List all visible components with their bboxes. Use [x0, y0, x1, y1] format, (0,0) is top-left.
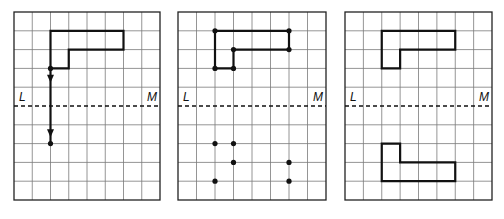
reflected-vertex-dot: [286, 160, 291, 165]
vertex-dot: [231, 47, 236, 52]
vertex-dot: [212, 66, 217, 71]
reflected-vertex-dot: [286, 179, 291, 184]
line-label-l: L: [183, 90, 190, 104]
vertex-dot: [286, 28, 291, 33]
reflected-vertex-dot: [231, 160, 236, 165]
reflection-diagram: LMLMLM: [0, 0, 504, 219]
panel-2: LM: [178, 12, 326, 200]
line-label-m: M: [479, 90, 489, 104]
panel-3: LM: [345, 12, 492, 200]
vertex-dot: [286, 47, 291, 52]
reflected-vertex-dot: [212, 179, 217, 184]
line-label-m: M: [147, 90, 157, 104]
vertex-dot: [231, 66, 236, 71]
reflected-vertex-dot: [212, 141, 217, 146]
start-dot: [48, 66, 53, 71]
line-label-m: M: [313, 90, 323, 104]
line-label-l: L: [19, 90, 26, 104]
reflected-vertex-dot: [231, 141, 236, 146]
vertex-dot: [212, 28, 217, 33]
panel-1: LM: [14, 12, 160, 200]
arrow-down-icon: [47, 75, 54, 83]
arrow-down-icon: [47, 129, 54, 137]
line-label-l: L: [350, 90, 357, 104]
reflected-vertex-dot: [48, 141, 53, 146]
